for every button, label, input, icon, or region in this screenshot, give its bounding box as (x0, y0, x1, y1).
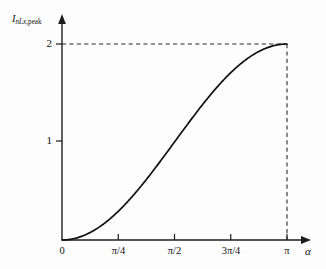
y-axis-label-subscript: nLx,peak (16, 18, 42, 26)
y-tick-label-2: 2 (34, 38, 52, 49)
data-curve-inlx-peak (62, 44, 287, 240)
y-axis-arrowhead (58, 14, 66, 24)
x-tick-label-pi-over-2: π/2 (156, 246, 193, 257)
y-tick-label-1: 1 (34, 135, 52, 146)
x-tick-label-pi-over-4: π/4 (100, 246, 137, 257)
y-axis-label-sub-italic: nLx, (16, 18, 29, 26)
x-axis-label: α (305, 246, 311, 257)
x-tick-label-pi: π (275, 246, 299, 257)
y-axis-label-sub-roman: peak (28, 18, 42, 26)
y-axis-label: InLx,peak (12, 14, 42, 25)
x-tick-label-0: 0 (52, 246, 72, 257)
x-axis-arrowhead (301, 236, 311, 244)
x-tick-label-3pi-over-4: 3π/4 (210, 246, 252, 257)
figure-canvas: InLx,peak 2 1 0 π/4 π/2 3π/4 π α (0, 0, 326, 269)
